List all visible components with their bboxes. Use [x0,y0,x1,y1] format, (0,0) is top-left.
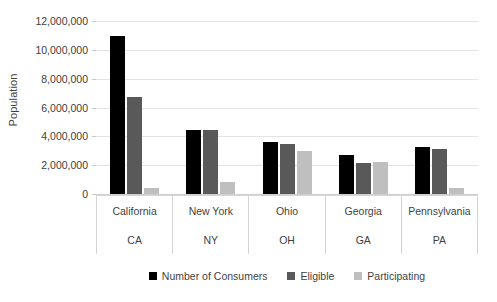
bar [127,97,142,194]
y-axis-tick-label: 6,000,000 [16,102,88,114]
y-axis-tick-label: 12,000,000 [16,15,88,27]
category-label-state: Ohio [249,196,324,225]
category-axis-column: OhioOH [249,196,325,254]
bar [280,144,295,194]
category-label-state: New York [173,196,248,225]
legend-item[interactable]: Eligible [287,270,334,282]
bar [432,149,447,194]
population-bar-chart: Population 12,000,00010,000,0008,000,000… [0,0,497,302]
bar [263,142,278,194]
category-axis-column: PennsylvaniaPA [402,196,478,254]
category-label-state: Georgia [326,196,401,225]
y-axis-tick-label: 4,000,000 [16,130,88,142]
bar [339,155,354,194]
bar-group [172,21,248,194]
bar [373,162,388,194]
category-axis-column: New YorkNY [173,196,249,254]
legend-swatch-icon [287,272,295,280]
legend-swatch-icon [354,272,362,280]
category-axis: CaliforniaCANew YorkNYOhioOHGeorgiaGAPen… [96,195,478,254]
y-axis-tick-label: 0 [16,188,88,200]
category-label-abbreviation: GA [326,225,401,254]
legend-swatch-icon [149,272,157,280]
bar [110,36,125,194]
category-label-abbreviation: NY [173,225,248,254]
bar [356,163,371,194]
legend-label: Participating [367,270,425,282]
category-label-state: Pennsylvania [402,196,477,225]
category-label-abbreviation: PA [402,225,477,254]
y-axis-tick-label: 2,000,000 [16,159,88,171]
bar [449,188,464,194]
bar [415,147,430,194]
category-axis-column: CaliforniaCA [96,196,173,254]
bar-group [402,21,478,194]
bar [186,130,201,194]
chart-legend: Number of ConsumersEligibleParticipating [96,266,478,286]
bar-group [249,21,325,194]
plot-area [96,21,478,194]
category-label-abbreviation: CA [97,225,172,254]
bar [220,182,235,194]
y-axis-tick-label: 10,000,000 [16,44,88,56]
bar [297,151,312,194]
y-axis-tick-labels: 12,000,00010,000,0008,000,0006,000,0004,… [20,14,92,194]
bar-groups [96,21,478,194]
legend-item[interactable]: Participating [354,270,425,282]
category-axis-column: GeorgiaGA [326,196,402,254]
legend-item[interactable]: Number of Consumers [149,270,268,282]
category-label-state: California [97,196,172,225]
bar-group [325,21,401,194]
bar [203,130,218,194]
y-axis-tick-label: 8,000,000 [16,73,88,85]
bar [144,188,159,194]
legend-label: Eligible [300,270,334,282]
bar-group [96,21,172,194]
category-label-abbreviation: OH [249,225,324,254]
legend-label: Number of Consumers [162,270,268,282]
